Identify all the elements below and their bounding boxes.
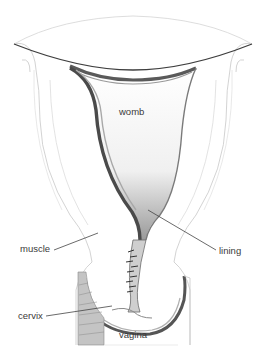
womb-label: womb [119,107,144,117]
cervix-label: cervix [18,311,43,321]
womb-cavity [70,66,196,240]
uterus-diagram: womb muscle lining cervix vagina [0,0,266,360]
muscle-leader-line [54,233,98,250]
uterus-illustration [0,0,266,360]
lining-leader-line [148,210,216,250]
lining-label: lining [219,246,241,256]
fundus-dome [14,16,252,70]
muscle-label: muscle [20,244,50,254]
cervical-canal [126,240,146,312]
vagina-label: vagina [119,330,147,340]
